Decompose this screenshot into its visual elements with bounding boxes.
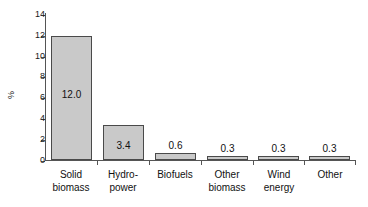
bar-value-other-biomass: 0.3	[207, 143, 248, 154]
x-tick-mark	[253, 161, 254, 165]
y-tick-group: 14	[0, 10, 45, 19]
x-category-label-solid-biomass: Solid biomass	[45, 168, 97, 194]
x-category-line2: biomass	[201, 181, 253, 194]
y-tick-group: 12	[0, 31, 45, 40]
y-tick-label: 2	[21, 135, 45, 144]
x-category-label-other: Other	[304, 168, 356, 181]
bar-value-biofuels: 0.6	[155, 140, 196, 151]
x-category-label-biofuels: Biofuels	[149, 168, 201, 181]
bar-other	[309, 156, 350, 160]
y-tick-group: 10	[0, 52, 45, 61]
x-tick-mark	[355, 161, 356, 165]
y-tick-label: 14	[21, 10, 45, 19]
x-category-line1: Solid	[60, 169, 82, 180]
bar-other-biomass	[207, 156, 248, 160]
x-category-line1: Hydro-	[108, 169, 138, 180]
x-tick-mark	[201, 161, 202, 165]
y-tick-label: 6	[21, 93, 45, 102]
x-category-line2: energy	[253, 181, 305, 194]
x-category-label-wind-energy: Wind energy	[253, 168, 305, 194]
y-axis-line	[45, 13, 46, 161]
y-tick-group: 6	[0, 93, 45, 102]
y-tick-group: 4	[0, 114, 45, 123]
y-tick-label: 12	[21, 31, 45, 40]
y-tick-group: 8	[0, 72, 45, 81]
y-tick-label: 8	[21, 72, 45, 81]
x-category-line2: biomass	[45, 181, 97, 194]
bar-biofuels	[155, 153, 196, 160]
y-tick-label: 4	[21, 114, 45, 123]
x-category-line1: Wind	[268, 169, 291, 180]
x-category-line1: Biofuels	[157, 169, 193, 180]
bar-value-solid-biomass: 12.0	[51, 89, 92, 100]
bar-value-other: 0.3	[309, 143, 350, 154]
bar-value-wind-energy: 0.3	[258, 143, 299, 154]
y-tick-group: 0	[0, 156, 45, 165]
x-tick-mark	[149, 161, 150, 165]
x-tick-mark	[304, 161, 305, 165]
y-tick-group: 2	[0, 135, 45, 144]
x-category-label-other-biomass: Other biomass	[201, 168, 253, 194]
bar-wind-energy	[258, 156, 299, 160]
bar-chart: % 14 12 10 8 6 4 2 0 12.0	[0, 0, 368, 207]
bar-value-hydro-power: 3.4	[103, 140, 144, 151]
x-category-line1: Other	[317, 169, 342, 180]
x-category-label-hydro-power: Hydro- power	[97, 168, 149, 194]
y-tick-label: 10	[21, 52, 45, 61]
x-category-line1: Other	[214, 169, 239, 180]
x-tick-mark	[97, 161, 98, 165]
x-category-line2: power	[97, 181, 149, 194]
y-tick-label: 0	[21, 156, 45, 165]
